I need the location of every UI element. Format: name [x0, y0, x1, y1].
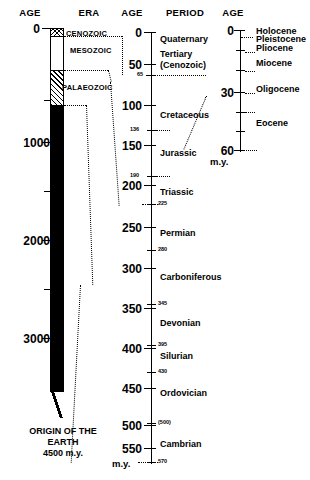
right-axis-spine	[240, 30, 241, 152]
mid-axis-spine	[151, 32, 152, 464]
boundary-tick-136	[147, 130, 156, 131]
mid-axis-label-350: 350	[106, 302, 142, 316]
boundary-leader-65	[146, 75, 206, 76]
boundary-label-570: 570	[158, 458, 167, 464]
mid-axis-label-100: 100	[106, 99, 142, 113]
header-age-left: AGE	[10, 7, 50, 18]
boundary-label-225: 225	[158, 200, 167, 206]
epoch-leader-miocene	[245, 71, 255, 72]
boundary-label-65: 65	[137, 71, 143, 77]
boundary-leader-225	[142, 204, 158, 205]
header-era: ERA	[66, 7, 112, 18]
era-connector-palaeozoic	[86, 105, 93, 285]
era-segment-precambrian	[50, 105, 64, 412]
period-quaternary: Quaternary	[160, 34, 208, 44]
era-label-palaeozoic: PALAEOZOIC	[62, 83, 113, 92]
boundary-label-430: 430	[158, 368, 167, 374]
mid-axis-tick-350	[144, 308, 156, 309]
period-permian: Permian	[160, 228, 196, 238]
geological-timescale-chart: AGE ERA AGE PERIOD AGE 0 1000 2000 3000 …	[0, 0, 310, 480]
boundary-label-136: 136	[130, 126, 139, 132]
mid-axis-label-50: 50	[110, 58, 142, 72]
header-age-mid: AGE	[112, 7, 152, 18]
boundary-label-345: 345	[158, 300, 167, 306]
period-carboniferous: Carboniferous	[160, 272, 222, 282]
period-tertiary: Tertiary	[160, 49, 192, 59]
right-axis-tick-40	[236, 112, 245, 113]
epoch-leader-oligocene	[245, 93, 255, 94]
boundary-leader-570	[138, 462, 158, 463]
right-axis-tick-10	[236, 50, 245, 51]
boundary-label-190: 190	[130, 172, 139, 178]
period-jurassic: Jurassic	[160, 148, 197, 158]
boundary-tick-395	[147, 345, 156, 346]
mid-axis-tick-150	[144, 145, 156, 146]
era-segment-mesozoic	[50, 36, 64, 71]
mid-axis-tick-200	[144, 185, 156, 186]
period-cambrian: Cambrian	[160, 439, 202, 449]
mid-axis-label-400: 400	[106, 342, 142, 356]
boundary-tick-280	[147, 250, 156, 251]
mid-axis-label-200: 200	[106, 179, 142, 193]
epoch-miocene: Miocene	[256, 58, 292, 68]
boundary-label-280: 280	[158, 246, 167, 252]
right-axis-tick-30	[234, 92, 245, 93]
boundary-tick-500	[147, 423, 156, 424]
mid-axis-tick-300	[144, 268, 156, 269]
epoch-leader-pliocene	[245, 52, 255, 53]
right-axis-label-0: 0	[210, 24, 234, 38]
period-silurian: Silurian	[160, 351, 193, 361]
header-age-right: AGE	[213, 7, 253, 18]
mid-axis-label-500: 500	[106, 419, 142, 433]
header-period: PERIOD	[157, 7, 213, 18]
mid-axis-unit: m.y.	[112, 458, 130, 469]
epoch-oligocene: Oligocene	[256, 84, 300, 94]
epoch-leader-pleistocene	[241, 37, 253, 38]
era-leader-palaeozoic-base	[64, 105, 86, 106]
mid-axis-tick-500	[144, 425, 156, 426]
epoch-leader-base	[241, 150, 257, 151]
mid-axis-tick-550	[144, 448, 156, 449]
mid-axis-label-0: 0	[112, 26, 142, 40]
boundary-leader-190	[156, 176, 170, 177]
era-label-mesozoic: MESOZOIC	[70, 46, 112, 55]
boundary-tick-430	[147, 372, 156, 373]
mid-axis-tick-450	[144, 388, 156, 389]
period-tertiary-sub: (Cenozoic)	[160, 60, 206, 70]
mid-axis-label-450: 450	[106, 382, 142, 396]
mid-axis-label-300: 300	[106, 262, 142, 276]
mid-axis-label-150: 150	[106, 139, 142, 153]
period-cretaceous: Cretaceous	[160, 110, 209, 120]
mid-axis-tick-100	[144, 105, 156, 106]
right-axis-unit: m.y.	[210, 156, 228, 167]
mid-axis-label-250: 250	[106, 221, 142, 235]
boundary-label-500: (500)	[158, 419, 171, 425]
right-axis-label-30: 30	[206, 86, 234, 100]
period-ordovician: Ordovician	[160, 388, 207, 398]
boundary-leader-136	[156, 130, 170, 131]
left-axis-label-0: 0	[8, 22, 40, 36]
mid-axis-tick-400	[144, 348, 156, 349]
scale-break-marker	[49, 392, 65, 418]
period-triassic: Triassic	[160, 187, 194, 197]
epoch-eocene: Eocene	[256, 118, 288, 128]
period-devonian: Devonian	[160, 318, 201, 328]
right-axis-tick-0	[234, 30, 245, 31]
boundary-tick-345	[147, 304, 156, 305]
epoch-pliocene: Pliocene	[256, 43, 293, 53]
boundary-tick-190	[147, 176, 156, 177]
era-leader-mesozoic-base	[64, 70, 108, 71]
mid-axis-tick-250	[144, 227, 156, 228]
right-axis-tick-20	[236, 70, 245, 71]
mid-axis-tick-0	[144, 32, 156, 33]
mid-axis-label-550: 550	[106, 442, 142, 456]
boundary-label-395: 395	[158, 341, 167, 347]
mid-axis-tick-50	[144, 64, 156, 65]
epoch-leader-eocene	[245, 112, 255, 113]
right-axis-tick-50	[236, 131, 245, 132]
cenozoic-expansion-connector	[183, 96, 207, 150]
